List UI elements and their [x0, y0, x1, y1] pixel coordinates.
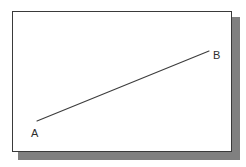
point-label-b: B — [213, 50, 220, 61]
segment-ab — [37, 51, 209, 121]
line-segment-graphic — [0, 0, 246, 167]
diagram-canvas: A B — [0, 0, 246, 167]
point-label-a: A — [31, 128, 38, 139]
